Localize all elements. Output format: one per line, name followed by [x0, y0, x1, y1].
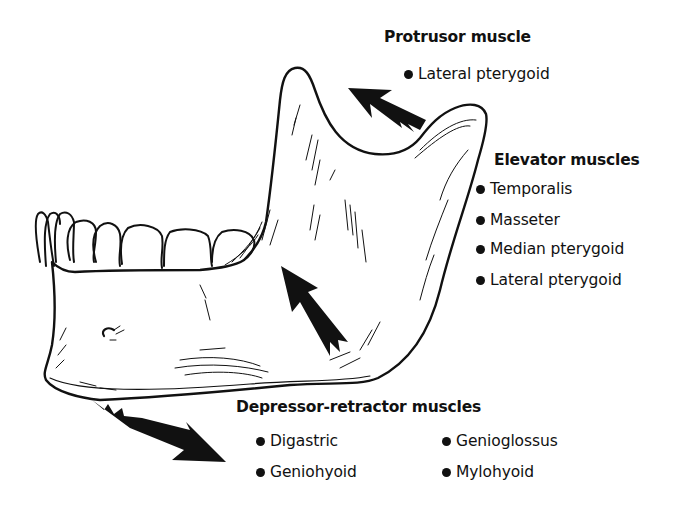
bullet-icon: [476, 276, 485, 285]
depressor-arrow: [92, 400, 226, 462]
bullet-icon: [404, 70, 413, 79]
bullet-icon: [476, 216, 485, 225]
depressor-item: Digastric: [256, 432, 338, 450]
teeth: [36, 212, 255, 268]
bullet-icon: [256, 468, 265, 477]
bullet-icon: [256, 437, 265, 446]
elevator-item: Masseter: [476, 211, 560, 229]
bullet-icon: [442, 437, 451, 446]
depressor-item: Geniohyoid: [256, 463, 357, 481]
depressor-item: Mylohyoid: [442, 463, 534, 481]
elevator-item: Median pterygoid: [476, 240, 624, 258]
protrusor-arrow: [348, 88, 426, 132]
elevator-arrow: [281, 266, 348, 356]
bullet-icon: [476, 245, 485, 254]
bullet-icon: [442, 468, 451, 477]
elevator-item: Lateral pterygoid: [476, 271, 622, 289]
protrusor-item: Lateral pterygoid: [404, 65, 550, 83]
depressor-retractor-heading: Depressor-retractor muscles: [236, 398, 481, 416]
bullet-icon: [476, 185, 485, 194]
elevator-item: Temporalis: [476, 180, 572, 198]
mental-foramen: [103, 328, 114, 336]
depressor-item: Genioglossus: [442, 432, 558, 450]
elevator-heading: Elevator muscles: [494, 151, 640, 169]
protrusor-heading: Protrusor muscle: [384, 28, 531, 46]
